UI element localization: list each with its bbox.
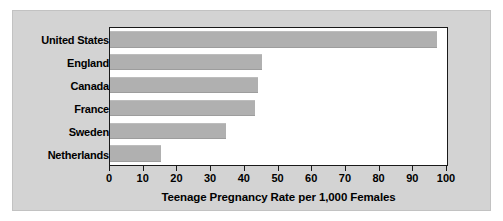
tick-label: 80	[364, 172, 394, 184]
chart-figure: United StatesEnglandCanadaFranceSwedenNe…	[0, 0, 503, 221]
tick-label: 10	[128, 172, 158, 184]
tick-label: 20	[161, 172, 191, 184]
tick-label: 30	[195, 172, 225, 184]
tick-label: 70	[330, 172, 360, 184]
category-axis-labels: United StatesEnglandCanadaFranceSwedenNe…	[21, 29, 109, 164]
category-label: United States	[21, 35, 109, 46]
value-axis-ticks: 0102030405060708090100	[109, 166, 448, 172]
tick-label: 40	[229, 172, 259, 184]
bar	[110, 54, 262, 70]
tick-mark	[446, 166, 447, 171]
bar	[110, 77, 258, 93]
bar	[110, 100, 255, 116]
category-label: Netherlands	[21, 150, 109, 161]
category-label: France	[21, 104, 109, 115]
category-label: England	[21, 58, 109, 69]
tick-label: 100	[431, 172, 461, 184]
tick-mark	[379, 166, 380, 171]
tick-label: 0	[94, 172, 124, 184]
bar	[110, 145, 161, 161]
tick-label: 90	[397, 172, 427, 184]
tick-mark	[345, 166, 346, 171]
tick-mark	[311, 166, 312, 171]
tick-label: 50	[263, 172, 293, 184]
tick-mark	[210, 166, 211, 171]
chart-panel: United StatesEnglandCanadaFranceSwedenNe…	[12, 10, 491, 211]
bar-series	[110, 28, 447, 165]
tick-mark	[412, 166, 413, 171]
tick-label: 60	[296, 172, 326, 184]
plot-area	[109, 27, 448, 166]
tick-mark	[278, 166, 279, 171]
category-label: Canada	[21, 81, 109, 92]
bar	[110, 31, 437, 47]
tick-mark	[143, 166, 144, 171]
x-axis-title: Teenage Pregnancy Rate per 1,000 Females	[109, 191, 448, 203]
bar	[110, 123, 226, 139]
category-label: Sweden	[21, 127, 109, 138]
tick-mark	[244, 166, 245, 171]
tick-mark	[176, 166, 177, 171]
tick-mark	[109, 166, 110, 171]
